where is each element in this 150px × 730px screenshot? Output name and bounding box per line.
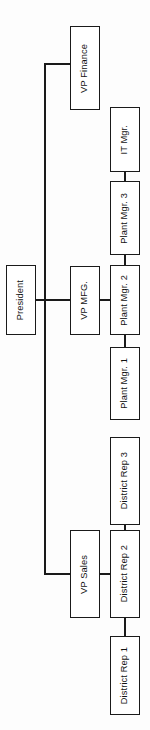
node-district-rep-3[interactable]: District Rep 3 (110, 437, 140, 525)
node-plant-mgr-2-label: Plant Mgr. 2 (120, 275, 129, 326)
node-president-label: President (16, 280, 25, 320)
node-vp-mfg-label: VP MFG. (80, 281, 89, 320)
org-chart-canvas: President VP Finance VP MFG. VP Sales IT… (0, 0, 150, 730)
node-plant-mgr-2[interactable]: Plant Mgr. 2 (110, 265, 140, 335)
node-vp-sales-label: VP Sales (80, 555, 89, 594)
node-plant-mgr-1-label: Plant Mgr. 1 (120, 358, 129, 409)
node-district-rep-2-label: District Rep 2 (120, 545, 129, 602)
node-vp-finance[interactable]: VP Finance (70, 26, 100, 110)
connector-president-to-trunk (35, 299, 71, 301)
node-it-mgr-label: IT Mgr. (120, 125, 129, 154)
node-vp-sales[interactable]: VP Sales (70, 530, 100, 618)
connector-district-rep-2-to-district-rep-1 (124, 617, 126, 636)
node-plant-mgr-3[interactable]: Plant Mgr. 3 (110, 181, 140, 255)
node-president[interactable]: President (6, 265, 36, 335)
connector-trunk-to-vp-finance (44, 63, 71, 65)
node-district-rep-2[interactable]: District Rep 2 (110, 530, 140, 618)
node-district-rep-3-label: District Rep 3 (120, 452, 129, 509)
node-it-mgr[interactable]: IT Mgr. (110, 107, 140, 172)
node-vp-mfg[interactable]: VP MFG. (70, 266, 100, 335)
connector-trunk-to-vp-sales (44, 573, 71, 575)
node-district-rep-1-label: District Rep 1 (120, 647, 129, 704)
node-district-rep-1[interactable]: District Rep 1 (110, 636, 140, 715)
node-plant-mgr-3-label: Plant Mgr. 3 (120, 193, 129, 244)
connector-trunk-vertical (44, 63, 46, 575)
connector-plant-mgr-2-to-plant-mgr-1 (124, 334, 126, 347)
node-vp-finance-label: VP Finance (80, 44, 89, 93)
node-plant-mgr-1[interactable]: Plant Mgr. 1 (110, 347, 140, 420)
